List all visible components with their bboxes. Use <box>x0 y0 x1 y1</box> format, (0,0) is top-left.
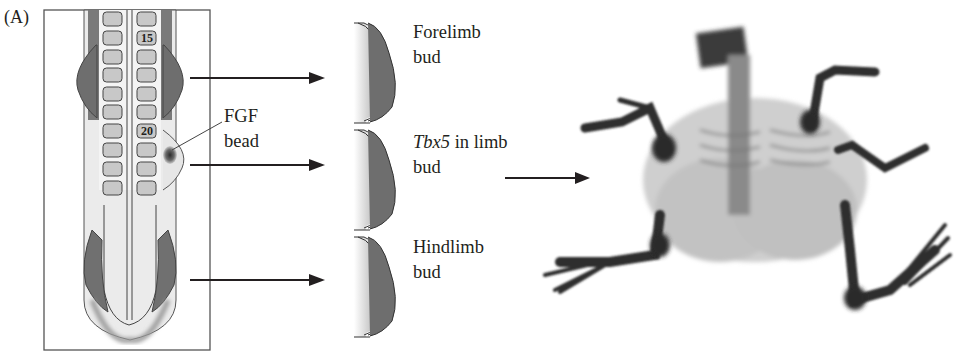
induced-bud-diagram <box>354 130 395 230</box>
fgf-bead-label: FGF bead <box>224 104 259 154</box>
hindlimb-bud-diagram <box>354 237 395 337</box>
somite-15-label: 15 <box>138 31 156 45</box>
forelimb-bud-label-line2: bud <box>413 45 481 70</box>
somite-20-label: 20 <box>138 124 156 138</box>
tbx5-italic: Tbx5 <box>413 132 450 152</box>
tbx5-bud-label-line2: bud <box>413 155 508 180</box>
hindlimb-text: Hindlimb <box>413 237 484 257</box>
arrow-to-result <box>505 172 590 184</box>
fgf-bead-label-line2: bead <box>224 129 259 154</box>
fgf-bead-label-line1: FGF <box>224 104 259 129</box>
forelimb-bud-diagram <box>354 23 395 123</box>
forelimb-bud-label-line1: Forelimb <box>413 20 481 45</box>
forelimb-text: Forelimb <box>413 22 481 42</box>
chick-skeleton-image <box>545 27 950 310</box>
hindlimb-bud-label-line2: bud <box>413 260 484 285</box>
hindlimb-bud-label-line1: Hindlimb <box>413 235 484 260</box>
hindlimb-bud-label: Hindlimb bud <box>413 235 484 285</box>
tbx5-bud-label-line1: Tbx5 in limb <box>413 130 508 155</box>
forelimb-bud-label: Forelimb bud <box>413 20 481 70</box>
tbx5-bud-label: Tbx5 in limb bud <box>413 130 508 180</box>
embryo-diagram <box>77 10 184 341</box>
tbx5-text: in limb <box>450 132 508 152</box>
